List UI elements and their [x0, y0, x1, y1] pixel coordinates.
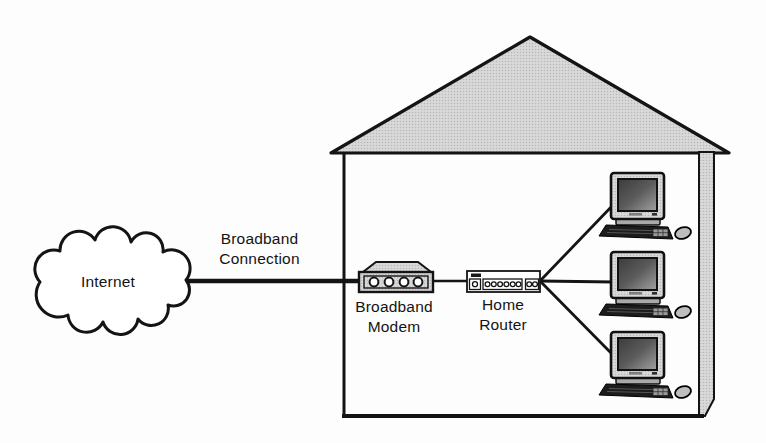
broadband-modem-label: Broadband Modem — [333, 297, 455, 337]
computer-3-icon — [599, 332, 693, 400]
home-router-icon — [467, 271, 540, 292]
home-router-label: Home Router — [442, 295, 564, 335]
internet-label: Internet — [58, 272, 158, 292]
house-right-wall — [699, 152, 714, 416]
broadband-connection-label: Broadband Connection — [196, 229, 323, 269]
computer-1-icon — [599, 173, 693, 241]
router-to-computer-2-line — [540, 281, 614, 282]
router-to-computer-1-line — [540, 204, 614, 281]
network-diagram-canvas — [0, 0, 766, 443]
house-roof — [331, 37, 729, 153]
network-diagram: Internet Broadband Connection Broadband … — [0, 0, 766, 443]
broadband-modem-icon — [359, 262, 433, 292]
computer-2-icon — [599, 252, 693, 320]
house-icon — [331, 37, 729, 416]
